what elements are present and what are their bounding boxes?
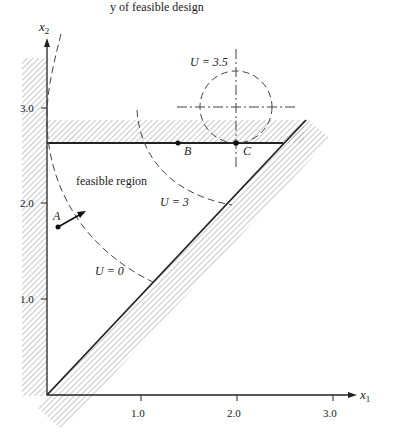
y-axis-label: x2 [38,19,49,36]
diagram-canvas: y of feasible design x2 x1 1.0 2.0 3.0 3… [0,0,395,447]
y-tick-label-2: 2.0 [20,197,34,209]
point-b-label: B [184,144,192,158]
y-tick-label-1: 1.0 [20,293,34,305]
x-tick-label-3: 3.0 [323,407,337,419]
u3-label: U = 3 [160,195,189,209]
y-tick-label-3: 3.0 [20,102,34,114]
direction-arrowhead-icon [77,211,86,218]
point-c [233,140,239,146]
header-partial-text: y of feasible design [110,0,204,14]
diagonal-constraint-line [47,120,306,395]
point-c-label: C [243,144,252,158]
point-b [176,141,181,146]
x-axis-arrow-icon [348,392,357,398]
x-axis-label: x1 [359,387,370,404]
contour-u0-full [47,34,155,283]
u35-label: U = 3.5 [190,55,228,69]
x-tick-label-2: 2.0 [227,407,241,419]
point-a-label: A [52,209,61,223]
x-tick-label-1: 1.0 [131,407,145,419]
feasible-region-label: feasible region [76,174,147,188]
direction-arrow-icon [58,214,81,227]
u0-label: U = 0 [95,264,124,278]
hatch-diagonal-constraint [38,119,330,428]
hatch-top-constraint [47,120,304,143]
y-axis-arrow-icon [44,38,50,47]
